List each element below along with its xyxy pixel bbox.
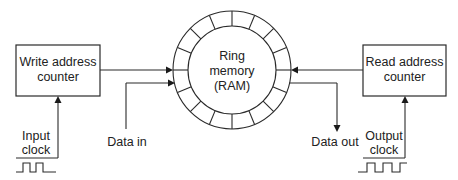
input-clock-label-line1: Input: [22, 129, 50, 143]
write-pointer-arrow: [100, 67, 173, 74]
data-in-label: Data in: [107, 135, 147, 149]
input-clock: Input clock: [16, 96, 62, 172]
ring-label-line2: memory: [209, 64, 255, 78]
data-out-label: Data out: [311, 135, 359, 149]
ring-memory: Ring memory (RAM): [173, 11, 291, 129]
arrowhead-icon: [402, 96, 409, 103]
input-clock-waveform-icon: [16, 163, 56, 172]
read-counter-label-line2: counter: [384, 70, 426, 84]
ring-buffer-diagram: Write address counter Read address count…: [0, 0, 458, 180]
ring-label-line3: (RAM): [214, 79, 250, 93]
arrowhead-icon: [55, 96, 62, 103]
ring-label-line1: Ring: [219, 49, 245, 63]
data-in-arrow: Data in: [107, 80, 175, 150]
arrowhead-icon: [291, 67, 298, 74]
read-counter-label-line1: Read address: [366, 55, 444, 69]
data-out-arrow: Data out: [289, 83, 359, 149]
arrowhead-icon: [166, 67, 173, 74]
read-address-counter: Read address counter: [363, 45, 446, 96]
write-counter-label-line2: counter: [37, 70, 79, 84]
arrowhead-icon: [334, 125, 341, 132]
output-clock-label-line2: clock: [370, 143, 399, 157]
output-clock: Output clock: [358, 96, 409, 172]
write-counter-label-line1: Write address: [20, 55, 97, 69]
write-address-counter: Write address counter: [16, 45, 100, 96]
read-pointer-arrow: [291, 67, 363, 74]
output-clock-label-line1: Output: [365, 129, 403, 143]
input-clock-label-line2: clock: [22, 143, 51, 157]
output-clock-waveform-icon: [358, 163, 407, 172]
